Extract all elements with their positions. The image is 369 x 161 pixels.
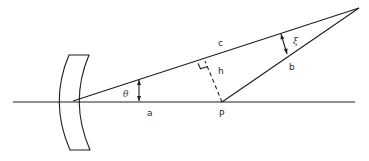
theta-arrowhead-down — [137, 96, 141, 101]
label-P: P — [219, 109, 225, 119]
label-c: c — [218, 38, 223, 48]
xi-arrowhead-bottom — [284, 49, 288, 55]
label-h: h — [218, 66, 224, 76]
label-theta: θ — [123, 89, 129, 99]
label-xi: ξ — [293, 36, 299, 46]
xi-arrowhead-top — [281, 34, 285, 40]
theta-arrowhead-up — [137, 80, 141, 85]
optics-diagram: c ξ θ a h b P — [0, 0, 369, 161]
label-a: a — [147, 108, 153, 118]
ray-b — [222, 8, 359, 102]
label-b: b — [289, 62, 295, 72]
right-angle-marker — [198, 63, 208, 69]
